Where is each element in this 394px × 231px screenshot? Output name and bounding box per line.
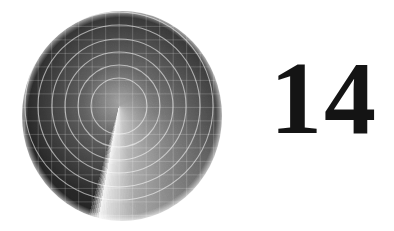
radar-sweep-svg xyxy=(21,10,223,222)
chapter-number: 14 xyxy=(258,42,390,154)
radar-sweep-figure xyxy=(21,10,223,222)
disc-content xyxy=(21,10,223,222)
disc-edge-halo xyxy=(21,10,223,222)
page-root: 14 xyxy=(0,0,394,231)
